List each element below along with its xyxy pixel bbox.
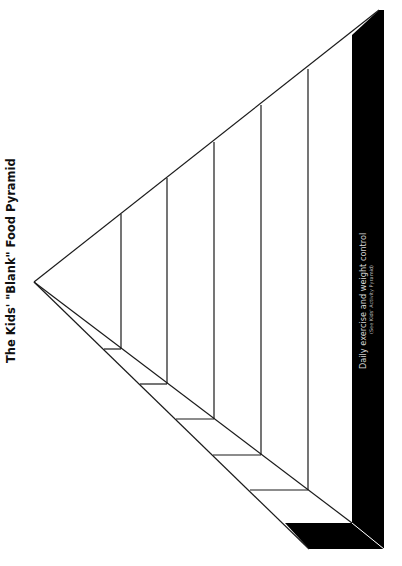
pyramid-side-bottom-edge [34,282,309,549]
food-pyramid-diagram: The Kids' "Blank" Food Pyramid Daily exe… [0,0,402,566]
pyramid-title: The Kids' "Blank" Food Pyramid [4,158,18,363]
base-band-label: Daily exercise and weight control [358,233,368,369]
pyramid-top-edge [34,10,379,282]
section-dividers [121,69,308,490]
pyramid-front-bottom-edge [34,282,352,523]
base-band-sublabel: (See Kids' Activity Pyramid) [368,265,375,334]
side-ledges [104,349,308,490]
